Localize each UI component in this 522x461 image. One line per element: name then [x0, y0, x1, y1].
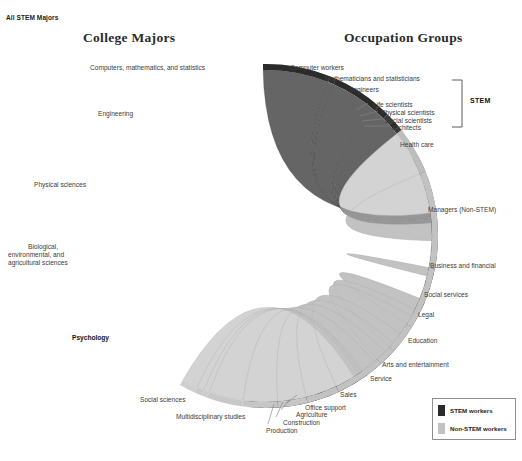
major-label: environmental, and — [8, 251, 64, 259]
occupation-label: Mathematicians and statisticians — [325, 75, 420, 83]
major-label: Multidisciplinary studies — [176, 413, 245, 421]
legend-label-stem: STEM workers — [450, 407, 493, 414]
legend-item-stem: STEM workers — [438, 405, 493, 416]
occupation-label: Computer workers — [290, 64, 344, 72]
major-label: agricultural sciences — [8, 259, 68, 267]
occupation-label: Life scientists — [373, 101, 413, 109]
occupation-label: Physical scientists — [381, 109, 435, 117]
major-label: Biological, — [28, 243, 58, 251]
chord-svg — [0, 0, 522, 461]
occupation-label: Business and financial — [430, 262, 496, 270]
chord-diagram-canvas: All STEM Majors College Majors Occupatio… — [0, 0, 522, 461]
legend-label-non-stem: Non-STEM workers — [450, 425, 507, 432]
major-label: Psychology — [72, 334, 109, 342]
occupation-label: Production — [266, 427, 298, 435]
stem-bracket-label: STEM — [470, 97, 491, 104]
occupation-label: Legal — [418, 311, 434, 319]
legend-box: STEM workers Non-STEM workers — [432, 398, 516, 440]
stem-bracket — [452, 80, 462, 127]
major-label: Computers, mathematics, and statistics — [90, 64, 205, 72]
legend-item-non-stem: Non-STEM workers — [438, 423, 507, 434]
occupation-label: Agriculture — [296, 411, 328, 419]
occupation-label: Arts and entertainment — [382, 361, 449, 369]
occupation-label: Engineers — [349, 86, 379, 94]
occupation-label: Sales — [340, 391, 357, 399]
legend-swatch-non-stem — [438, 423, 445, 434]
major-label: Social sciences — [140, 396, 185, 404]
major-label: Physical sciences — [34, 181, 86, 189]
occupation-label: Managers (Non-STEM) — [428, 206, 496, 214]
legend-swatch-stem — [438, 405, 445, 416]
occupation-label: Architects — [392, 124, 421, 132]
occupation-label: Service — [370, 375, 392, 383]
occupation-label: Construction — [283, 419, 320, 427]
major-label: Engineering — [98, 110, 133, 118]
occupation-label: Health care — [400, 141, 434, 149]
occupation-label: Education — [408, 337, 437, 345]
occupation-label: Social services — [424, 291, 468, 299]
